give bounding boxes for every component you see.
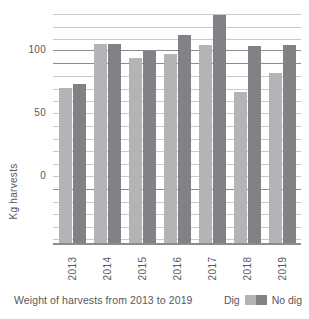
x-tick-label-2018: 2018 xyxy=(242,249,253,289)
bar-group-2014 xyxy=(94,14,122,244)
legend-swatch-dig xyxy=(245,295,256,305)
x-tick-label-2015: 2015 xyxy=(137,249,148,289)
bar-group-2015 xyxy=(129,14,157,244)
bar-dig-2017[interactable] xyxy=(199,45,212,244)
chart-legend: Dig No dig xyxy=(224,294,302,306)
bar-nodig-2015[interactable] xyxy=(143,51,156,244)
bar-nodig-2016[interactable] xyxy=(178,35,191,244)
x-axis-labels: 2013 2014 2015 2016 2017 2018 2019 xyxy=(53,247,301,289)
x-axis-line xyxy=(53,243,301,245)
bar-dig-2019[interactable] xyxy=(269,73,282,244)
bar-dig-2014[interactable] xyxy=(94,44,107,244)
bar-dig-2016[interactable] xyxy=(164,54,177,244)
legend-swatches xyxy=(245,295,267,305)
bar-nodig-2017[interactable] xyxy=(213,15,226,244)
legend-label-nodig: No dig xyxy=(272,294,302,306)
bar-group-2017 xyxy=(199,14,227,244)
bar-group-2013 xyxy=(59,14,87,244)
bar-group-2019 xyxy=(269,14,297,244)
x-tick-label-2017: 2017 xyxy=(207,249,218,289)
bars-layer xyxy=(53,14,301,244)
bar-dig-2015[interactable] xyxy=(129,58,142,244)
bar-group-2016 xyxy=(164,14,192,244)
bar-group-2018 xyxy=(234,14,262,244)
legend-label-dig: Dig xyxy=(224,294,240,306)
y-axis-title: Kg harvests xyxy=(8,149,19,235)
x-tick-label-2014: 2014 xyxy=(102,249,113,289)
bar-nodig-2013[interactable] xyxy=(73,84,86,244)
y-tick-label-100: 100 xyxy=(28,44,46,55)
bar-nodig-2014[interactable] xyxy=(108,44,121,244)
chart-caption: Weight of harvests from 2013 to 2019 xyxy=(14,294,193,306)
x-tick-label-2019: 2019 xyxy=(277,249,288,289)
x-tick-label-2013: 2013 xyxy=(67,249,78,289)
y-tick-label-0: 0 xyxy=(40,170,46,181)
bar-chart: 100 50 0 Kg harvests 2013 2014 2015 2016… xyxy=(0,0,309,319)
legend-swatch-nodig xyxy=(256,295,267,305)
chart-footer: Weight of harvests from 2013 to 2019 Dig… xyxy=(14,291,302,309)
bar-nodig-2018[interactable] xyxy=(248,46,261,244)
y-tick-label-50: 50 xyxy=(34,107,46,118)
bar-dig-2018[interactable] xyxy=(234,92,247,244)
bar-dig-2013[interactable] xyxy=(59,88,72,244)
bar-nodig-2019[interactable] xyxy=(283,45,296,244)
x-tick-label-2016: 2016 xyxy=(172,249,183,289)
